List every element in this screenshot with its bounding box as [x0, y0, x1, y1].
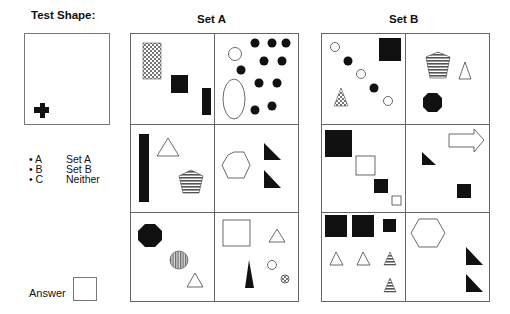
set-b-cell-2 — [423, 52, 471, 112]
set-a-cell-1 — [143, 43, 211, 115]
set-b-cell-6 — [411, 219, 483, 292]
set-b-cell-5 — [325, 215, 396, 292]
set-a-cell-3 — [139, 134, 203, 202]
set-b-cell-1 — [331, 38, 402, 106]
arrow-right-icon — [449, 129, 484, 152]
cross-icon — [34, 103, 49, 118]
set-a-cell-5 — [138, 224, 203, 287]
set-b-cell-4 — [422, 129, 484, 198]
shapes-canvas — [0, 0, 510, 314]
set-a-cell-2 — [223, 39, 291, 120]
set-b-cell-3 — [325, 130, 401, 205]
set-a-cell-4 — [222, 143, 281, 188]
set-a-cell-6 — [223, 220, 289, 288]
